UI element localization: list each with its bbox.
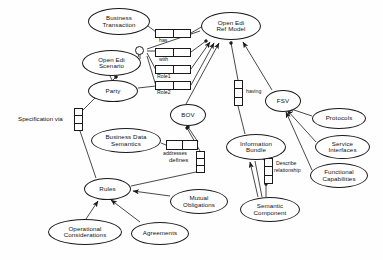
node-label: ServiceInterfaces	[327, 141, 357, 154]
edge-rules-defines	[131, 172, 196, 186]
node-label: SemanticComponent	[253, 203, 288, 216]
node-rules[interactable]: Rules	[84, 178, 131, 200]
node-functional-capabilities[interactable]: FunctionalCapabilities	[310, 163, 368, 188]
edge-label-describe-relationship-line2: relationship	[274, 168, 301, 173]
node-semantic-component[interactable]: SemanticComponent	[240, 197, 300, 222]
edge-label-with: with	[159, 57, 168, 62]
node-agreements[interactable]: Agreements	[131, 222, 189, 245]
assoc-box-addresses	[166, 140, 198, 150]
edge-semanticcomponent-infobundle-b	[255, 161, 262, 197]
node-label: FSV	[276, 98, 290, 105]
node-protocols[interactable]: Protocols	[312, 108, 366, 129]
edge-label-addresses: addresses	[163, 151, 187, 156]
edge-operational-rules	[86, 201, 98, 219]
node-party[interactable]: Party	[88, 80, 138, 102]
node-label: Open EdiScenario	[97, 57, 126, 70]
edge-party-role2	[138, 86, 156, 88]
label-specification-via: Specification via	[18, 115, 63, 122]
edge-serviceinterfaces-fsv	[287, 110, 316, 142]
node-service-interfaces[interactable]: ServiceInterfaces	[315, 135, 370, 159]
edge-agreements-rules	[111, 200, 140, 222]
node-label: FunctionalCapabilities	[321, 169, 356, 182]
edge-label-having: having	[246, 89, 261, 94]
node-open-edi-scenario[interactable]: Open EdiScenario	[82, 50, 141, 76]
node-label: Protocols	[325, 115, 354, 122]
edge-label-describe-relationship-line1: Describe	[276, 161, 296, 166]
node-business-transaction[interactable]: BusinessTransaction	[88, 8, 150, 35]
node-label: Business DataSemantics	[104, 134, 147, 147]
node-label: Agreements	[142, 230, 178, 237]
edge-label-role2: Role2	[157, 90, 171, 95]
node-bov[interactable]: BOV	[170, 104, 206, 126]
assoc-box-defines	[196, 151, 205, 173]
node-label: MutualObligations	[182, 195, 216, 208]
edge-label-defines: defines	[169, 157, 188, 163]
edge-label-has: has	[159, 38, 167, 43]
node-fsv[interactable]: FSV	[265, 90, 301, 112]
junction-node	[135, 46, 144, 55]
node-label: Rules	[98, 186, 116, 193]
edge-mutual-rules	[133, 191, 170, 196]
node-label: Party	[105, 88, 122, 95]
node-label: BusinessTransaction	[101, 15, 136, 28]
diagram-canvas: has with Role1 Role2 having addresses de…	[0, 0, 383, 260]
node-label: Open EdiRef Model	[215, 20, 246, 33]
edge-label-role1: Role1	[157, 74, 171, 79]
edge-having-refmodel	[231, 43, 238, 80]
node-label: OperationalConsiderations	[63, 226, 108, 239]
node-operational-considerations[interactable]: OperationalConsiderations	[48, 219, 122, 245]
node-information-bundle[interactable]: InformationBundle	[226, 134, 286, 160]
assoc-box-specification-via	[74, 108, 83, 131]
edge-semanticcomponent-infobundle	[250, 162, 258, 197]
node-open-edi-ref-model[interactable]: Open EdiRef Model	[201, 12, 261, 40]
node-label: BOV	[180, 112, 195, 119]
diagram-connectors	[0, 0, 383, 260]
node-label: InformationBundle	[239, 141, 273, 154]
edge-infobundle-having	[238, 106, 245, 134]
node-mutual-obligations[interactable]: MutualObligations	[170, 189, 228, 214]
assoc-box-describe-relationship	[264, 158, 273, 184]
assoc-box-having	[234, 80, 243, 106]
edge-fsv-refmodel	[243, 42, 272, 90]
node-business-data-semantics[interactable]: Business DataSemantics	[91, 128, 161, 153]
